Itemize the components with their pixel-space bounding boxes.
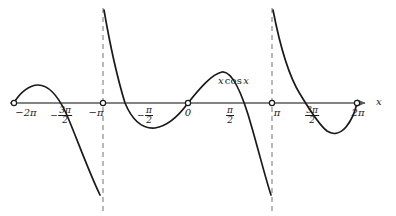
open-point-pi: [269, 100, 274, 105]
fraction-numerator: 3π: [305, 106, 319, 115]
fraction-numerator: π: [226, 106, 234, 115]
fraction-sign: −: [137, 111, 145, 120]
open-point-two-pi: [354, 100, 359, 105]
function-graph-figure: x cos x x −2π − 3π 2 −π − π 2 0 π 2: [0, 0, 396, 216]
tick-label-pi: π: [274, 108, 281, 118]
fraction-denominator: 2: [145, 115, 153, 125]
fraction-denominator: 2: [226, 115, 234, 125]
tick-label-neg-two-pi: −2π: [15, 108, 36, 118]
open-point-zero: [185, 100, 190, 105]
curve-label-var2: x: [243, 75, 249, 86]
tick-label-neg-pi: −π: [89, 108, 104, 118]
fraction-numerator: π: [145, 106, 153, 115]
open-point-neg-two-pi: [11, 100, 16, 105]
open-point-neg-pi: [100, 100, 105, 105]
curve-equation-label: x cos x: [218, 76, 249, 86]
tick-label-neg-three-pi-over-two: − 3π 2: [50, 106, 72, 126]
tick-label-zero: 0: [185, 108, 191, 118]
fraction-sign: −: [50, 111, 58, 120]
tick-label-pi-over-two: π 2: [226, 106, 234, 126]
fraction-denominator: 2: [305, 115, 319, 125]
fraction-numerator: 3π: [58, 106, 72, 115]
fraction-denominator: 2: [58, 115, 72, 125]
x-axis-label: x: [376, 97, 382, 107]
curve-label-operator: cos: [225, 75, 243, 86]
curve-segment-left: [14, 85, 100, 195]
tick-label-neg-pi-over-two: − π 2: [137, 106, 153, 126]
tick-label-two-pi: 2π: [352, 108, 365, 118]
tick-label-three-pi-over-two: 3π 2: [305, 106, 319, 126]
